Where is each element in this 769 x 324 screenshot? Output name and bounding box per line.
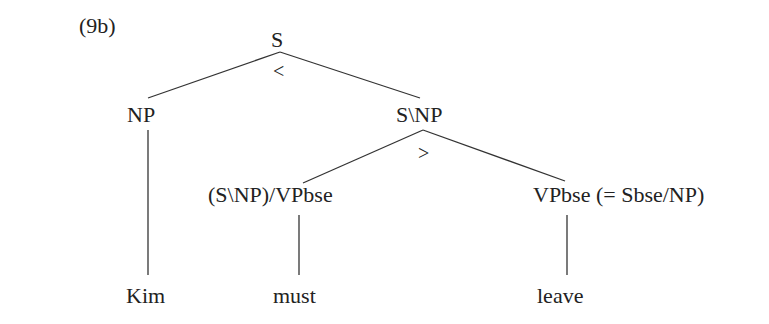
node-modal-category: (S\NP)/VPbse <box>208 184 333 206</box>
leaf-kim: Kim <box>126 285 165 307</box>
edge-snp-modal <box>303 130 423 183</box>
example-label: (9b) <box>79 15 116 37</box>
node-s-bs-np: S\NP <box>396 104 442 126</box>
combinator-forward-application: > <box>418 143 429 163</box>
leaf-leave: leave <box>537 285 583 307</box>
tree-edges <box>0 0 769 324</box>
edge-snp-vpbse <box>423 130 565 181</box>
leaf-must: must <box>273 285 316 307</box>
edge-s-np <box>148 52 280 98</box>
edge-s-snp <box>280 52 420 98</box>
node-vpbse: VPbse (= Sbse/NP) <box>533 184 704 206</box>
node-s-root: S <box>271 29 283 51</box>
node-np: NP <box>127 104 155 126</box>
combinator-backward-application: < <box>273 61 284 81</box>
